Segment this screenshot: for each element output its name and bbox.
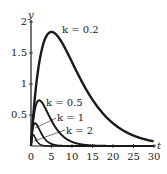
y-tick-label: 1.5 [11, 47, 27, 58]
x-tick-label: 30 [148, 151, 161, 162]
y-tick-label: 1 [21, 78, 27, 89]
label-k-0-2: k = 0.2 [62, 24, 99, 35]
y-axis-label: y [27, 9, 34, 20]
chart: 0 5 10 15 20 25 30 0.5 1 1.5 2 y t k = 0… [0, 0, 167, 174]
x-tick-label: 5 [48, 151, 54, 162]
x-axis-label: t [157, 140, 162, 151]
label-k-1: k = 1 [57, 112, 84, 123]
y-tick-label: 2 [21, 16, 27, 27]
x-tick-label: 0 [28, 151, 34, 162]
label-k-2: k = 2 [66, 125, 93, 136]
x-tick-label: 20 [107, 151, 120, 162]
x-tick-label: 25 [127, 151, 140, 162]
x-tick-label: 15 [86, 151, 99, 162]
label-k-0-5: k = 0.5 [46, 97, 83, 108]
y-tick-label: 0.5 [11, 109, 27, 120]
x-tick-label: 10 [66, 151, 79, 162]
